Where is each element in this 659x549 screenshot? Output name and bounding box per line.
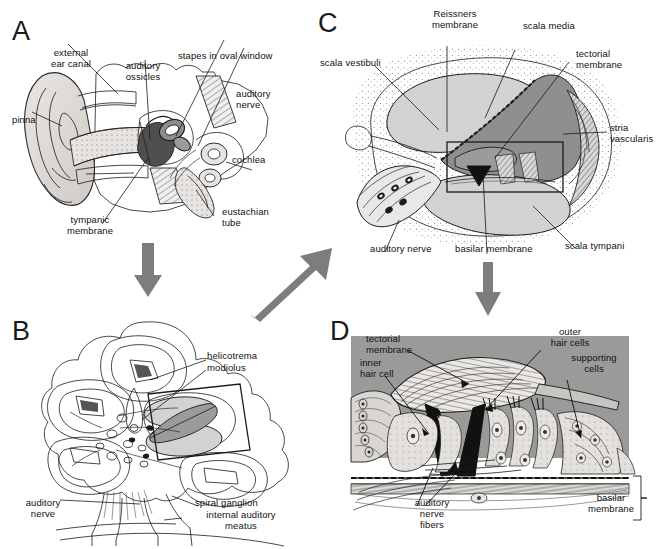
figure-root: A B C D (0, 0, 659, 549)
label-inner-hair-cell: inner hair cell (360, 357, 394, 379)
label-supporting-cells: supporting cells (560, 352, 628, 374)
label-scala-vestibuli: scala vestibuli (320, 57, 381, 68)
label-reissners-membrane: Reissners membrane (420, 8, 490, 30)
label-stapes-in-oval-window: stapes in oval window (178, 50, 273, 61)
label-stria-vascularis: stria vascularis (610, 122, 653, 144)
label-internal-auditory-meatus: internal auditory meatus (186, 509, 296, 531)
label-tectorial-membrane-d: tectorial membrane (366, 333, 412, 355)
label-scala-tympani: scala tympani (565, 240, 624, 251)
label-modiolus: modiolus (207, 362, 246, 373)
label-eustachian-tube: eustachian tube (222, 206, 269, 228)
label-auditory-nerve-b: auditory nerve (12, 497, 74, 519)
label-auditory-nerve-c: auditory nerve (370, 243, 432, 254)
label-auditory-nerve-fibers: auditory nerve fibers (400, 497, 464, 530)
label-cochlea: cochlea (232, 154, 265, 165)
label-auditory-ossicles: auditory ossicles (112, 60, 174, 82)
label-tectorial-membrane: tectorial membrane (576, 48, 622, 70)
label-basilar-membrane-d: basilar membrane (572, 492, 650, 514)
label-helicotrema: helicotrema (207, 350, 257, 361)
label-auditory-nerve-a: auditory nerve (236, 88, 271, 110)
label-spiral-ganglion: spiral ganglion (195, 497, 258, 508)
label-basilar-membrane-c: basilar membrane (455, 243, 533, 254)
label-scala-media: scala media (523, 20, 575, 31)
label-pinna: pinna (12, 114, 36, 125)
label-tympanic-membrane: tympanic membrane (52, 214, 128, 236)
label-external-ear-canal: external ear canal (40, 47, 102, 69)
label-outer-hair-cells: outer hair cells (540, 326, 600, 348)
arrow-a-to-b (128, 243, 168, 299)
